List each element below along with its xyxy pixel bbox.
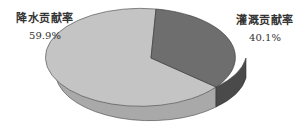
label-irrigation-name: 灌溉贡献率 <box>230 14 300 27</box>
label-precipitation: 降水贡献率 59.9% <box>10 12 80 42</box>
label-precipitation-value: 59.9% <box>10 29 80 42</box>
label-precipitation-name: 降水贡献率 <box>10 12 80 25</box>
label-irrigation: 灌溉贡献率 40.1% <box>230 14 300 44</box>
label-irrigation-value: 40.1% <box>230 31 300 44</box>
